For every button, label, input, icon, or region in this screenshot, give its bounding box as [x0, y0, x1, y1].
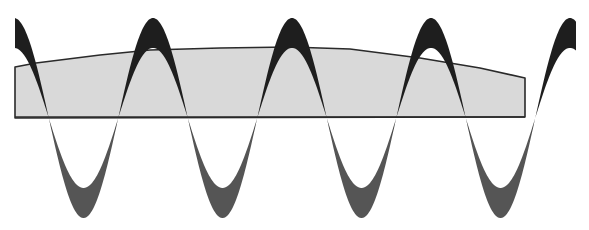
sine-wave-diagram	[0, 0, 589, 230]
